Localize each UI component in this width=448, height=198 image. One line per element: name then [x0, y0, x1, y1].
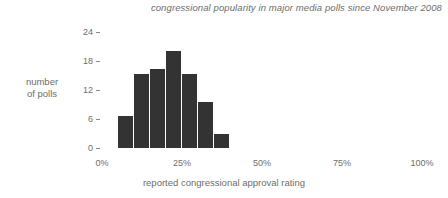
y-tick-label-18: 18 [83, 56, 93, 66]
y-tick-mark-6 [96, 119, 100, 120]
x-axis-title: reported congressional approval rating [0, 177, 448, 188]
y-tick-mark-12 [96, 90, 100, 91]
chart-title: congressional popularity in major media … [0, 2, 442, 13]
x-tick-100: 100% [400, 152, 444, 170]
x-tick-label-75: 75% [333, 158, 351, 168]
bar [118, 116, 134, 148]
x-tick-75: 75% [320, 152, 364, 170]
plot-area [102, 32, 422, 148]
x-tick-label-50: 50% [253, 158, 271, 168]
x-tick-label-0: 0% [95, 158, 108, 168]
y-tick-18: 18 [58, 56, 100, 66]
y-tick-label-6: 6 [88, 114, 93, 124]
y-tick-6: 6 [58, 114, 100, 124]
bar [198, 102, 214, 148]
x-tick-0: 0% [80, 152, 124, 170]
bar [182, 74, 198, 148]
bar [134, 74, 150, 148]
x-tick-50: 50% [240, 152, 284, 170]
bar [214, 134, 230, 148]
bar [150, 69, 166, 148]
y-tick-24: 24 [58, 27, 100, 37]
x-tick-label-100: 100% [410, 158, 433, 168]
chart-figure: congressional popularity in major media … [0, 0, 448, 198]
y-tick-mark-0 [96, 148, 100, 149]
x-tick-25: 25% [160, 152, 204, 170]
y-tick-mark-24 [96, 32, 100, 33]
y-tick-label-12: 12 [83, 85, 93, 95]
bar [166, 51, 182, 148]
y-tick-label-24: 24 [83, 27, 93, 37]
x-tick-label-25: 25% [173, 158, 191, 168]
y-tick-12: 12 [58, 85, 100, 95]
y-tick-mark-18 [96, 61, 100, 62]
